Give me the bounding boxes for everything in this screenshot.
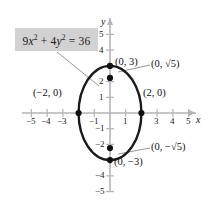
- y-tick-label-1: 1: [99, 92, 104, 102]
- label-lower-focus: (0, −√5): [151, 141, 185, 152]
- label-right-vertex: (2, 0): [143, 87, 166, 98]
- label-top-vertex: (0, 3): [115, 56, 138, 67]
- y-axis-label: y: [101, 16, 105, 27]
- y-tick-label-2: 2: [99, 76, 104, 86]
- x-tick-label--4: −4: [41, 116, 51, 126]
- label-upper-focus: (0, √5): [151, 58, 180, 69]
- equation-exp-x: 2: [34, 33, 38, 42]
- x-axis-label: x: [196, 114, 200, 125]
- x-tick-label--5: −5: [26, 116, 36, 126]
- y-tick-label-5: 5: [99, 29, 104, 39]
- leader-equation: [57, 52, 99, 86]
- y-tick-label--1: −1: [95, 123, 105, 133]
- equation-text: 9x2 + 4y2 = 36: [22, 33, 90, 47]
- point-left-vertex: [76, 110, 82, 116]
- x-tick-label--3: −3: [57, 116, 67, 126]
- y-tick-label-4: 4: [99, 45, 104, 55]
- equation-exp-y: 2: [62, 33, 66, 42]
- y-tick-label--5: −5: [95, 186, 105, 196]
- label-bottom-vertex: (0, −3): [114, 156, 143, 167]
- equation-rhs: 36: [79, 34, 91, 46]
- equation-box: 9x2 + 4y2 = 36: [14, 27, 99, 52]
- y-tick-label--4: −4: [95, 170, 105, 180]
- point-top-vertex: [107, 63, 113, 69]
- point-bottom-vertex: [107, 157, 113, 163]
- ellipse-figure: 9x2 + 4y2 = 36 (0, 3) (0, √5) (−2, 0) (2…: [0, 0, 211, 201]
- leader-lower-focus: [118, 148, 150, 154]
- equation-equals: =: [69, 34, 76, 46]
- y-tick-label--2: −2: [95, 139, 105, 149]
- x-tick-label-3: 3: [154, 116, 159, 126]
- point-lower-focus: [107, 145, 113, 151]
- point-right-vertex: [138, 110, 144, 116]
- x-tick-label-4: 4: [170, 116, 175, 126]
- x-tick-label-1: 1: [123, 116, 128, 126]
- equation-plus: +: [41, 34, 48, 46]
- y-axis: [106, 18, 114, 192]
- x-tick-label-5: 5: [186, 116, 191, 126]
- point-upper-focus: [107, 75, 113, 81]
- label-left-vertex: (−2, 0): [33, 87, 62, 98]
